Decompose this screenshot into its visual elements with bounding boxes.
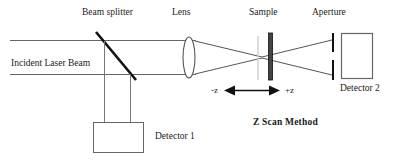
lens-element <box>183 37 195 78</box>
label-negative-z: -z <box>211 86 218 95</box>
detector-1-box <box>94 123 144 153</box>
label-lens: Lens <box>172 8 190 18</box>
beam-splitter-mirror <box>96 32 136 80</box>
label-sample: Sample <box>249 8 278 18</box>
label-aperture: Aperture <box>312 8 346 18</box>
z-translation-arrow <box>224 86 280 96</box>
figure-title: Z Scan Method <box>253 118 318 128</box>
detector-2-box <box>342 34 373 79</box>
label-incident-laser-beam: Incident Laser Beam <box>11 59 90 69</box>
label-detector-1: Detector 1 <box>155 132 195 142</box>
z-scan-diagram: Beam splitter Lens Sample Aperture Incid… <box>0 0 399 163</box>
diagram-canvas <box>0 0 399 163</box>
label-beam-splitter: Beam splitter <box>82 8 133 18</box>
label-detector-2: Detector 2 <box>340 84 380 94</box>
converging-rays <box>195 41 262 74</box>
label-positive-z: +z <box>285 86 294 95</box>
sample-slab <box>269 33 273 80</box>
reflected-beam-rays <box>105 41 131 123</box>
